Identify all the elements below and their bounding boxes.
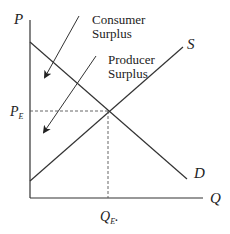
consumer-surplus-label-line2: Surplus (92, 26, 132, 41)
producer-surplus-arrow (44, 56, 96, 132)
producer-surplus-label-line1: Producer (108, 52, 156, 67)
supply-label: S (187, 36, 195, 52)
x-axis-label: Q (210, 190, 221, 206)
supply-curve (30, 47, 183, 181)
demand-label: D (193, 165, 205, 181)
equilibrium-price-label: PE (9, 104, 24, 121)
supply-demand-diagram: P Q S D Consumer Surplus Producer Surplu… (0, 0, 230, 234)
consumer-surplus-label-line1: Consumer (92, 12, 146, 27)
y-axis-label: P (13, 11, 23, 27)
equilibrium-quantity-label: QE. (100, 209, 119, 226)
diagram-canvas: P Q S D Consumer Surplus Producer Surplu… (0, 0, 230, 234)
consumer-surplus-arrow (45, 16, 79, 77)
producer-surplus-label-line2: Surplus (108, 66, 148, 81)
